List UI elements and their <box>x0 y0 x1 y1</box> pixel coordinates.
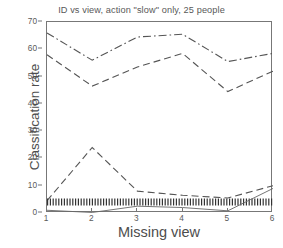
y-tick-label: 0 <box>32 207 37 217</box>
chart-figure: ID vs view, action "slow" only, 25 peopl… <box>0 0 283 248</box>
x-tick-mark <box>91 208 92 212</box>
series-line-dashdot-upper <box>47 33 273 62</box>
x-tick-mark <box>136 208 137 212</box>
x-tick-label: 6 <box>270 213 275 223</box>
y-axis-label: Classification rate <box>27 32 42 202</box>
x-tick-label: 3 <box>134 213 139 223</box>
x-tick-label: 5 <box>224 213 229 223</box>
y-tick-mark <box>38 212 42 213</box>
y-tick-mark <box>38 21 42 22</box>
x-tick-label: 4 <box>179 213 184 223</box>
chart-title: ID vs view, action "slow" only, 25 peopl… <box>0 5 283 15</box>
series-line-dashed-upper <box>47 53 273 91</box>
y-axis-label-container: Classification rate <box>6 21 26 212</box>
x-axis-label: Missing view <box>46 224 272 240</box>
plot-area <box>46 21 272 212</box>
x-tick-mark <box>182 208 183 212</box>
series-line-dashed-lower-bump <box>47 148 273 201</box>
x-tick-label: 2 <box>89 213 94 223</box>
y-tick-label: 70 <box>28 16 37 26</box>
plot-lines <box>47 22 273 213</box>
x-tick-label: 1 <box>44 213 49 223</box>
x-tick-mark <box>227 208 228 212</box>
